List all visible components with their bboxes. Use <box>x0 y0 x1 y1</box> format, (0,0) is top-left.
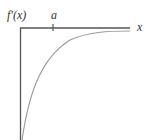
y-axis-label: f′(x) <box>7 8 26 22</box>
x-axis-label: x <box>136 20 143 34</box>
derivative-curve <box>22 31 130 140</box>
tick-label-a: a <box>51 8 57 22</box>
graph: f′(x) a x <box>0 0 151 140</box>
